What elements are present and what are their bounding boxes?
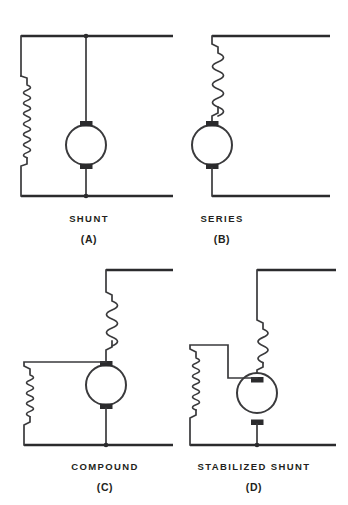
series-coil-top-kink xyxy=(257,270,263,328)
panel-compound: COMPOUND (C) xyxy=(24,270,173,493)
shunt-field-coil xyxy=(24,85,31,158)
junction-top xyxy=(84,34,89,39)
motor-field-diagram-figure: SHUNT (A) SERIES (B) xyxy=(0,0,348,505)
shunt-branch-lower-lead xyxy=(190,410,196,445)
series-coil-bottom-kink xyxy=(212,107,218,122)
shunt-branch-upper-lead xyxy=(190,345,257,378)
panel-caption-shunt: SHUNT xyxy=(69,213,109,224)
shunt-coil-bottom-kink xyxy=(21,158,27,196)
panel-letter-b: (B) xyxy=(214,233,230,245)
brush-bottom xyxy=(80,164,93,170)
panel-letter-c: (C) xyxy=(97,481,113,493)
junction-bottom xyxy=(84,194,89,199)
junction-bottom xyxy=(255,443,260,448)
armature-symbol xyxy=(192,125,232,165)
brush-top xyxy=(206,121,219,127)
junction-bottom xyxy=(104,443,109,448)
panel-letter-d: (D) xyxy=(246,481,262,493)
panel-letter-a: (A) xyxy=(81,233,97,245)
series-field-coil xyxy=(258,329,268,363)
armature-symbol xyxy=(66,125,106,165)
series-field-coil xyxy=(107,301,118,346)
shunt-coil-top-kink xyxy=(21,76,27,84)
panel-caption-compound: COMPOUND xyxy=(71,461,139,472)
series-coil-top-kink xyxy=(106,270,112,300)
panel-shunt: SHUNT (A) xyxy=(21,34,173,245)
shunt-field-coil xyxy=(27,375,34,417)
panel-series: SERIES (B) xyxy=(192,36,330,245)
panel-stabilized-shunt: STABILIZED SHUNT (D) xyxy=(190,270,336,493)
shunt-field-coil xyxy=(193,358,200,410)
series-coil-top-kink xyxy=(212,36,218,52)
panel-caption-stabilized-shunt: STABILIZED SHUNT xyxy=(198,461,311,472)
armature-symbol xyxy=(86,365,126,405)
panel-caption-series: SERIES xyxy=(200,213,243,224)
shunt-branch-lower-lead xyxy=(24,417,30,445)
brush-top xyxy=(80,121,93,127)
series-coil-bottom-kink xyxy=(106,341,112,362)
